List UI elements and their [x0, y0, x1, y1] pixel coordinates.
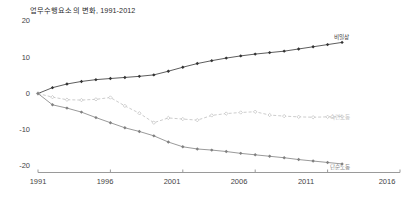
- data-point-marker: [181, 117, 184, 120]
- data-point-marker: [167, 116, 170, 119]
- data-point-marker: [210, 114, 213, 117]
- data-point-marker: [196, 118, 199, 121]
- data-point-marker: [311, 45, 314, 48]
- data-point-marker: [254, 110, 257, 113]
- data-point-marker: [210, 148, 213, 151]
- data-point-marker: [109, 121, 112, 124]
- data-point-marker: [181, 145, 184, 148]
- data-point-marker: [254, 52, 257, 55]
- data-point-marker: [297, 47, 300, 50]
- line-chart: 업무수행요소의 변화, 1991-2012 20 10 0 -10 -20 19…: [0, 0, 413, 199]
- data-point-marker: [94, 98, 97, 101]
- data-point-marker: [196, 147, 199, 150]
- series-label-2: 단순노동: [330, 163, 350, 171]
- data-point-marker: [268, 51, 271, 54]
- data-point-marker: [123, 104, 126, 107]
- plot-area: [0, 0, 413, 199]
- data-point-marker: [282, 114, 285, 117]
- data-point-marker: [51, 95, 54, 98]
- data-point-marker: [123, 126, 126, 129]
- data-point-marker: [297, 115, 300, 118]
- data-point-marker: [51, 86, 54, 89]
- data-point-marker: [109, 77, 112, 80]
- data-point-marker: [196, 62, 199, 65]
- data-point-marker: [152, 134, 155, 137]
- data-point-marker: [326, 161, 329, 164]
- data-point-marker: [152, 73, 155, 76]
- data-point-marker: [268, 113, 271, 116]
- series-layer: [36, 41, 343, 166]
- data-point-marker: [94, 116, 97, 119]
- data-point-marker: [282, 49, 285, 52]
- data-point-marker: [80, 80, 83, 83]
- data-point-marker: [239, 111, 242, 114]
- series-line: [38, 94, 342, 164]
- series-label-1: 숙련노동: [330, 113, 350, 121]
- data-point-marker: [239, 152, 242, 155]
- data-point-marker: [225, 112, 228, 115]
- data-point-marker: [297, 158, 300, 161]
- data-point-marker: [181, 66, 184, 69]
- data-point-marker: [65, 98, 68, 101]
- data-point-marker: [167, 140, 170, 143]
- series-0: [36, 41, 343, 95]
- data-point-marker: [239, 54, 242, 57]
- series-1: [36, 92, 343, 125]
- data-point-marker: [326, 115, 329, 118]
- series-line: [38, 94, 342, 123]
- data-point-marker: [311, 159, 314, 162]
- data-point-marker: [65, 82, 68, 85]
- data-point-marker: [80, 98, 83, 101]
- series-line: [38, 42, 342, 93]
- data-point-marker: [254, 153, 257, 156]
- series-label-0: 비일상: [334, 33, 349, 41]
- data-point-marker: [65, 106, 68, 109]
- data-point-marker: [225, 56, 228, 59]
- data-point-marker: [138, 75, 141, 78]
- data-point-marker: [94, 78, 97, 81]
- data-point-marker: [311, 116, 314, 119]
- data-point-marker: [210, 59, 213, 62]
- data-point-marker: [268, 155, 271, 158]
- data-point-marker: [282, 156, 285, 159]
- series-2: [36, 92, 343, 166]
- data-point-marker: [109, 96, 112, 99]
- data-point-marker: [167, 70, 170, 73]
- data-point-marker: [225, 150, 228, 153]
- data-point-marker: [123, 76, 126, 79]
- data-point-marker: [326, 43, 329, 46]
- data-point-marker: [340, 41, 343, 44]
- data-point-marker: [80, 110, 83, 113]
- data-point-marker: [138, 130, 141, 133]
